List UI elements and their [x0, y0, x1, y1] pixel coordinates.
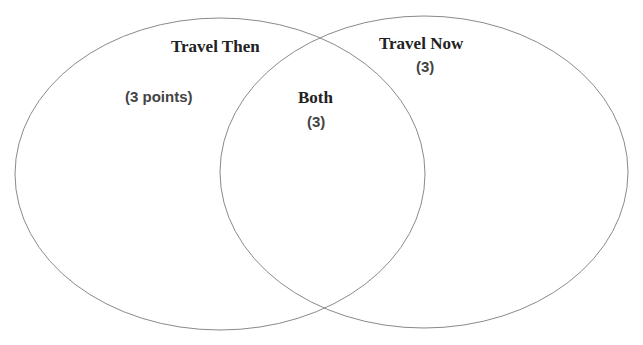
set-travel-now-count: (3)	[416, 58, 434, 75]
venn-diagram	[0, 0, 643, 345]
intersection-count: (3)	[307, 113, 325, 130]
set-travel-now-title: Travel Now	[379, 34, 463, 54]
set-travel-then-count: (3 points)	[125, 88, 193, 105]
intersection-title: Both	[298, 88, 333, 108]
set-travel-then-title: Travel Then	[171, 37, 260, 57]
